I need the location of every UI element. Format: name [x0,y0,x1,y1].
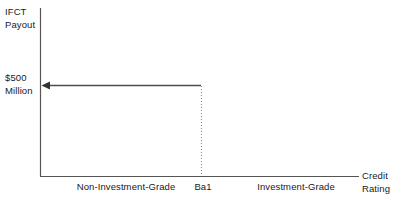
ifct-payout-chart: IFCT Payout $500 Million Credit Rating N… [0,0,397,205]
x-axis-title: Credit Rating [362,170,390,195]
chart-plot-area [0,0,397,205]
x-tick-label-non-investment-grade: Non-Investment-Grade [52,181,200,193]
y-tick-label-500-million: $500 Million [5,72,33,97]
y-axis-title: IFCT Payout [5,6,35,31]
payout-arrowhead-icon [42,82,51,90]
x-tick-label-ba1: Ba1 [181,181,225,193]
x-tick-label-investment-grade: Investment-Grade [243,181,349,193]
